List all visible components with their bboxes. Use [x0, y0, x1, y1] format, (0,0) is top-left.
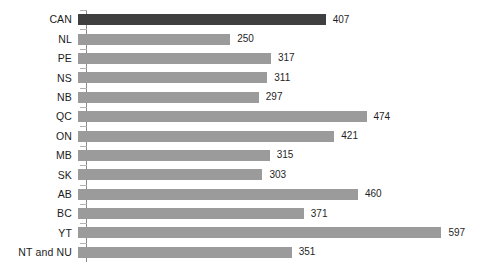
category-label: CAN — [0, 14, 78, 25]
category-label: NB — [0, 92, 78, 103]
bar-value-label: 315 — [270, 150, 294, 160]
bar-qc — [78, 111, 367, 122]
bar-bc — [78, 208, 304, 219]
bar-row: CAN 407 — [0, 10, 501, 29]
bar-chart: CAN 407 NL 250 PE 317 — [0, 0, 501, 269]
bar-value-label: 303 — [262, 170, 286, 180]
bar-nl — [78, 34, 230, 45]
bar-row: QC 474 — [0, 107, 501, 126]
bar-value-label: 371 — [304, 209, 328, 219]
bar-value-label: 407 — [326, 15, 350, 25]
bar-track: 460 — [78, 185, 501, 204]
bar-track: 371 — [78, 204, 501, 223]
bar-value-label: 311 — [267, 73, 290, 83]
bar-track: 351 — [78, 243, 501, 262]
bar-row: AB 460 — [0, 185, 501, 204]
bar-yt — [78, 227, 441, 238]
bar-row: NT and NU 351 — [0, 243, 501, 262]
category-label: MB — [0, 150, 78, 161]
bar-value-label: 460 — [358, 189, 382, 199]
bar-track: 407 — [78, 10, 501, 29]
bar-can — [78, 14, 326, 25]
bar-pe — [78, 53, 271, 64]
bar-row: SK 303 — [0, 165, 501, 184]
bar-rows: CAN 407 NL 250 PE 317 — [0, 10, 501, 262]
bar-track: 597 — [78, 223, 501, 242]
bar-row: BC 371 — [0, 204, 501, 223]
bar-nt-and-nu — [78, 247, 292, 258]
bar-row: NL 250 — [0, 29, 501, 48]
bar-value-label: 421 — [334, 131, 358, 141]
bar-row: ON 421 — [0, 126, 501, 145]
bar-track: 250 — [78, 29, 501, 48]
category-label: PE — [0, 53, 78, 64]
bar-track: 315 — [78, 146, 501, 165]
category-label: ON — [0, 131, 78, 142]
bar-ab — [78, 189, 358, 200]
bar-value-label: 250 — [230, 34, 254, 44]
category-label: NT and NU — [0, 247, 78, 258]
bar-nb — [78, 92, 259, 103]
bar-row: NS 311 — [0, 68, 501, 87]
bar-track: 421 — [78, 126, 501, 145]
bar-on — [78, 131, 334, 142]
category-label: AB — [0, 189, 78, 200]
bar-value-label: 351 — [292, 247, 316, 257]
bar-sk — [78, 169, 262, 180]
bar-ns — [78, 72, 267, 83]
category-label: NL — [0, 34, 78, 45]
bar-value-label: 317 — [271, 53, 295, 63]
plot-area: CAN 407 NL 250 PE 317 — [0, 0, 501, 269]
category-label: SK — [0, 170, 78, 181]
bar-value-label: 597 — [441, 228, 465, 238]
bar-row: NB 297 — [0, 88, 501, 107]
bar-track: 303 — [78, 165, 501, 184]
bar-value-label: 474 — [367, 112, 391, 122]
bar-row: MB 315 — [0, 146, 501, 165]
category-label: BC — [0, 208, 78, 219]
category-label: YT — [0, 228, 78, 239]
bar-track: 317 — [78, 49, 501, 68]
bar-row: YT 597 — [0, 223, 501, 242]
bar-mb — [78, 150, 270, 161]
category-label: NS — [0, 73, 78, 84]
category-label: QC — [0, 111, 78, 122]
bar-track: 474 — [78, 107, 501, 126]
bar-track: 297 — [78, 88, 501, 107]
bar-track: 311 — [78, 68, 501, 87]
bar-value-label: 297 — [259, 92, 283, 102]
bar-row: PE 317 — [0, 49, 501, 68]
